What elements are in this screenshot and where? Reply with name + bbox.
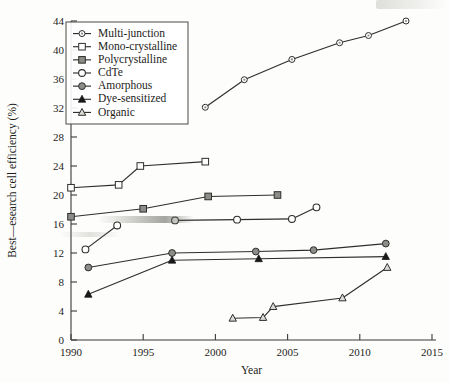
marker-circle-gray-icon bbox=[310, 247, 317, 254]
marker-circle-open-icon bbox=[79, 70, 86, 77]
marker-circle-open-icon bbox=[313, 204, 320, 211]
x-axis-title: Year bbox=[241, 364, 262, 376]
marker-circle-dot-center-icon bbox=[81, 32, 83, 34]
y-tick-label: 8 bbox=[59, 276, 65, 288]
scan-artifact-mid-2 bbox=[60, 232, 120, 237]
series-line bbox=[205, 21, 406, 107]
marker-square-filled-icon bbox=[205, 193, 212, 200]
marker-circle-dot-center-icon bbox=[204, 106, 206, 108]
y-tick-label: 12 bbox=[53, 247, 64, 259]
marker-circle-gray-icon bbox=[252, 248, 259, 255]
legend-label: Polycrystalline bbox=[98, 53, 167, 66]
marker-circle-gray-icon bbox=[382, 240, 389, 247]
y-axis-title: Best—esearch cell efficiency (%) bbox=[6, 103, 19, 258]
marker-circle-gray-icon bbox=[79, 83, 86, 90]
x-tick-label: 1990 bbox=[60, 346, 83, 358]
marker-circle-gray-icon bbox=[169, 250, 176, 257]
marker-square-filled-icon bbox=[79, 57, 86, 64]
series-line bbox=[88, 244, 385, 268]
legend-label: Multi-junction bbox=[98, 27, 165, 40]
legend-label: CdTe bbox=[98, 66, 123, 78]
y-tick-label: 24 bbox=[53, 160, 65, 172]
x-tick-label: 2015 bbox=[421, 346, 444, 358]
marker-circle-dot-center-icon bbox=[338, 42, 340, 44]
series-dye-sensitized bbox=[85, 253, 390, 298]
series-line bbox=[85, 225, 117, 249]
chart-page: 0481216202428323640441990199520002005201… bbox=[0, 0, 450, 382]
y-tick-label: 40 bbox=[53, 44, 65, 56]
efficiency-line-chart: 0481216202428323640441990199520002005201… bbox=[0, 0, 450, 382]
marker-triangle-filled-icon bbox=[382, 253, 389, 260]
marker-square-open-icon bbox=[115, 182, 122, 189]
series-cdte-early bbox=[82, 222, 121, 253]
marker-square-open-icon bbox=[202, 158, 209, 165]
x-tick-label: 1995 bbox=[132, 346, 155, 358]
scan-artifact-mid bbox=[98, 216, 194, 223]
marker-square-open-icon bbox=[137, 163, 144, 170]
y-tick-label: 32 bbox=[53, 102, 64, 114]
marker-circle-open-icon bbox=[82, 246, 89, 253]
marker-circle-dot-center-icon bbox=[243, 79, 245, 81]
y-tick-label: 20 bbox=[53, 189, 65, 201]
y-tick-label: 44 bbox=[53, 15, 65, 27]
marker-square-open-icon bbox=[68, 184, 75, 191]
series-mono-crystalline bbox=[68, 158, 209, 191]
y-tick-label: 36 bbox=[53, 73, 65, 85]
legend: Multi-junctionMono-crystallinePolycrysta… bbox=[66, 22, 188, 124]
marker-circle-dot-center-icon bbox=[291, 58, 293, 60]
legend-label: Dye-sensitized bbox=[98, 92, 167, 105]
series-line bbox=[233, 268, 388, 319]
x-tick-label: 2005 bbox=[277, 346, 300, 358]
series-line bbox=[88, 257, 385, 295]
y-tick-label: 4 bbox=[59, 305, 65, 317]
marker-circle-open-icon bbox=[234, 216, 241, 223]
legend-label: Mono-crystalline bbox=[98, 40, 177, 53]
series-line bbox=[71, 195, 277, 217]
marker-square-filled-icon bbox=[140, 205, 147, 212]
y-tick-label: 16 bbox=[53, 218, 65, 230]
x-tick-label: 2010 bbox=[349, 346, 372, 358]
marker-circle-dot-center-icon bbox=[405, 20, 407, 22]
marker-square-filled-icon bbox=[68, 213, 75, 220]
y-tick-label: 28 bbox=[53, 131, 65, 143]
x-tick-label: 2000 bbox=[204, 346, 227, 358]
legend-label: Organic bbox=[98, 106, 135, 119]
marker-triangle-open-icon bbox=[339, 294, 346, 301]
marker-circle-dot-center-icon bbox=[367, 34, 369, 36]
marker-square-filled-icon bbox=[274, 192, 281, 199]
marker-circle-open-icon bbox=[114, 222, 121, 229]
marker-triangle-open-icon bbox=[384, 264, 391, 271]
marker-circle-gray-icon bbox=[85, 264, 92, 271]
series-amorphous bbox=[85, 240, 389, 271]
legend-label: Amorphous bbox=[98, 79, 153, 92]
y-tick-label: 0 bbox=[59, 334, 65, 346]
marker-square-open-icon bbox=[79, 43, 86, 50]
series-multi-junction bbox=[202, 18, 409, 110]
marker-circle-open-icon bbox=[289, 216, 296, 223]
series-organic bbox=[229, 264, 391, 322]
